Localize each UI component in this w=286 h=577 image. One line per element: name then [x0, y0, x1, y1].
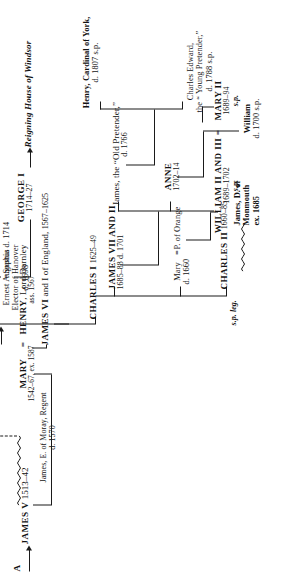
line-old-pretender-children — [154, 109, 155, 165]
node-charles-i: CHARLES I 1625–49 — [88, 227, 99, 319]
monmouth-dates: ex. 1685 — [252, 147, 261, 225]
line-orange-drop — [186, 239, 210, 240]
sophia-name: Sophia d. 1714 — [2, 187, 11, 273]
illegitimate-riser-1 — [0, 435, 17, 436]
line-jamesvii-drop — [122, 264, 158, 265]
line-mary-riser — [34, 373, 52, 374]
node-william-iii: WILLIAM II and III 1689–1702 s.p. — [213, 133, 241, 237]
node-house-of-windsor: Reigning House of Windsor — [23, 7, 33, 147]
james-vi-rest: and I of England, — [40, 229, 50, 299]
line-elizabeth-to-sophia — [0, 276, 1, 277]
old-pretender-dates: d. 1766 — [121, 83, 130, 205]
charles-i-dates: 1625–49 — [89, 234, 98, 262]
george-i-dates: 1714–27 — [26, 167, 35, 227]
wavy-path-2 — [240, 223, 246, 271]
james-vi-dates: 1567–1625 — [41, 192, 50, 228]
mary-dates: 1542–67, ex. 1587 — [28, 345, 36, 401]
pointer-a-label: A — [12, 565, 22, 572]
line-gen5-spine — [118, 210, 214, 211]
node-william-1700: William d. 1700 s.p. — [243, 79, 262, 157]
william-1700-dates: d. 1700 s.p. — [252, 79, 261, 157]
windsor-arrow-head — [27, 147, 33, 152]
genealogy-chart-page: A JAMES V 1513–42 James, E. of Moray d. … — [0, 0, 286, 577]
node-moray-regent: James, E. of Moray, Regent d. 1570 — [40, 375, 58, 499]
line-orange-to-william — [210, 212, 211, 240]
young-pretender-line2: the “ Young Pretender,” — [195, 9, 204, 133]
line-to-young-pretender — [182, 101, 183, 109]
line-charlesi-drop — [96, 295, 114, 296]
node-mary-ii: MARY II 1689–94 s.p. — [213, 71, 241, 129]
monmouth-line2: Monmouth — [242, 147, 251, 225]
james-vi-name: JAMES VI — [40, 298, 50, 345]
genealogy-tree-stage: A JAMES V 1513–42 James, E. of Moray d. … — [0, 0, 286, 577]
line-sophia-drop — [14, 276, 30, 277]
pointer-a-shaft — [29, 549, 30, 571]
line-anne-drop — [177, 176, 203, 177]
line-mary-darnley-drop — [32, 347, 46, 348]
line-gen4-spine — [114, 295, 226, 296]
line-anne-to-william1700 — [203, 131, 204, 177]
node-mary: MARY 1542–67, ex. 1587 — [18, 345, 36, 401]
line-jamesv-to-mary — [51, 374, 52, 505]
pointer-a-head — [26, 545, 32, 550]
wavy-path-1 — [16, 435, 22, 505]
windsor-arrow-shaft — [30, 151, 31, 167]
line-to-charlesi — [68, 323, 95, 324]
james-v-name: JAMES V — [20, 502, 30, 544]
line-jamesvii-children — [158, 211, 159, 265]
line-jamesv-riser — [33, 504, 51, 505]
node-sophia: Sophia d. 1714 — [2, 187, 11, 273]
line-old-pretender-drop — [126, 164, 154, 165]
henry-york-dates: d. 1807 s.p. — [91, 0, 100, 125]
node-old-pretender: James, the “Old Pretender,” d. 1766 — [111, 83, 130, 205]
mary-orange-dates: d. 1660 — [182, 253, 191, 289]
young-pretender-name: Charles Edward, — [186, 9, 195, 133]
illegitimate-line-james-v — [16, 435, 22, 505]
node-young-pretender: Charles Edward, the “ Young Pretender,” … — [186, 9, 214, 133]
pointer-b-shaft — [1, 330, 2, 344]
young-pretender-dates: d. 1788 s.p. — [205, 9, 214, 133]
line-gen6-spine — [100, 108, 182, 109]
charles-i-name: CHARLES I — [88, 265, 98, 319]
william-1700-name: William — [243, 79, 252, 157]
node-mary-orange: Mary d. 1660 — [173, 253, 192, 289]
node-george-i: GEORGE I 1714–27 — [16, 167, 35, 227]
illegitimate-line-charles-ii — [240, 223, 246, 271]
henry-york-name: Henry, Cardinal of York, — [82, 0, 91, 125]
line-to-georgei — [30, 219, 31, 277]
node-henry-york: Henry, Cardinal of York, d. 1807 s.p. — [82, 0, 101, 125]
charles-ii-name: CHARLES II — [219, 231, 229, 289]
mary-orange-name: Mary — [173, 253, 182, 289]
windsor-label: Reigning House of Windsor — [23, 7, 33, 147]
william-iii-note: s.p. — [232, 133, 241, 237]
mary-ii-note: s.p. — [232, 71, 241, 129]
